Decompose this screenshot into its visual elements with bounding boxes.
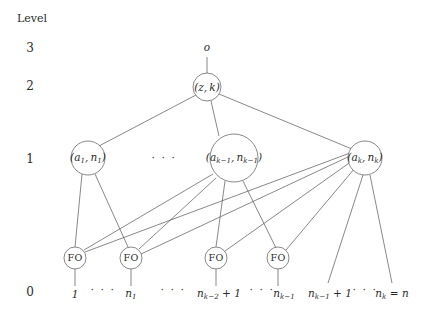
leaf-label-6: nk = n (375, 288, 408, 300)
edge-ak1-to-fo3 (216, 181, 225, 247)
leaf-ellipsis-3: · · · (250, 285, 275, 296)
leaf-ellipsis-4: · · · (353, 285, 378, 296)
edge-a1-to-fo2 (95, 174, 128, 247)
leaf-ellipsis-1: · · · (91, 285, 116, 296)
level-axis-title: Level (17, 13, 47, 24)
edge-z-k-to-mid (211, 101, 219, 136)
fo-node-2-label: FO (124, 253, 139, 263)
node-ak1-nk1-label: (ak−1, nk−1) (206, 152, 262, 164)
leaf-ellipsis-2: · · · (161, 285, 186, 296)
node-a1-n1-label: (a1, n1) (70, 152, 106, 164)
level1-ellipsis: · · · (152, 153, 177, 164)
node-z-k-label: (z, k) (194, 82, 220, 93)
edge-ak-to-leaf6 (370, 175, 392, 283)
leaf-label-1: 1 (72, 289, 79, 300)
level-label-0: 0 (26, 286, 34, 298)
fo-node-4-label: FO (271, 253, 286, 263)
edge-ak1-to-fo1 (84, 174, 213, 250)
leaf-label-5: nk−1 + 1 (308, 288, 352, 300)
edge-z-k-to-a1 (99, 95, 196, 146)
fo-node-1-label: FO (68, 253, 83, 263)
leaf-label-4: nk−1 (273, 288, 295, 300)
node-ak-nk-label: (ak, nk) (347, 152, 382, 164)
leaf-label-2: n1 (125, 288, 136, 300)
edge-ak1-to-fo2 (139, 178, 216, 249)
level-label-1: 1 (26, 153, 34, 165)
edge-ak-to-fo4 (286, 168, 355, 250)
level-label-2: 2 (26, 80, 34, 92)
level-label-3: 3 (26, 42, 34, 54)
edge-ak-to-leaf5 (328, 175, 363, 283)
edge-a1-to-fo1 (75, 174, 82, 247)
root-output-label: o (204, 42, 210, 53)
leaf-label-3: nk−2 + 1 (197, 288, 241, 300)
tree-diagram: Level 3 2 1 0 o (z, k) (a1, n1) · · · (a… (0, 0, 430, 317)
fo-node-3-label: FO (209, 253, 224, 263)
